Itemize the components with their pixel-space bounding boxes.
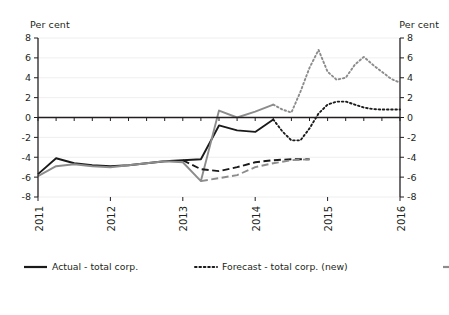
y-axis-right-unit-label: Per cent — [399, 19, 439, 30]
legend-label: Forecast - total corp. (new) — [222, 261, 348, 272]
chart-legend: Actual - total corp.Forecast - total cor… — [24, 258, 449, 275]
svg-text:-8: -8 — [407, 191, 416, 202]
svg-text:0: 0 — [407, 112, 413, 123]
series-line — [38, 105, 273, 182]
svg-text:2013: 2013 — [178, 206, 189, 231]
svg-text:-6: -6 — [407, 172, 416, 183]
svg-text:8: 8 — [25, 32, 31, 43]
series-line — [38, 119, 273, 174]
svg-text:-4: -4 — [407, 152, 416, 163]
svg-text:-4: -4 — [22, 152, 31, 163]
x-axis: 201120122013201420152016 — [34, 118, 407, 232]
svg-text:6: 6 — [25, 52, 31, 63]
axis-lines — [38, 38, 400, 197]
svg-text:2: 2 — [25, 92, 31, 103]
legend-swatch-solid-icon — [24, 262, 48, 272]
series-line — [273, 50, 400, 113]
legend-swatch-dotted-icon — [194, 262, 218, 272]
legend-label: Actual - total corp. — [52, 261, 138, 272]
svg-text:8: 8 — [407, 32, 413, 43]
svg-text:0: 0 — [25, 112, 31, 123]
legend-swatch-solid-icon — [443, 262, 449, 272]
svg-text:4: 4 — [407, 72, 413, 83]
svg-text:2016: 2016 — [396, 206, 407, 231]
series-line — [183, 159, 310, 171]
svg-text:2011: 2011 — [34, 206, 45, 231]
series-line — [273, 102, 400, 141]
y-axis-right: 86420-2-4-6-8 — [400, 32, 416, 202]
svg-text:2: 2 — [407, 92, 413, 103]
svg-text:2012: 2012 — [106, 206, 117, 231]
y-axis-left-unit-label: Per cent — [30, 19, 70, 30]
data-series-layer — [38, 50, 400, 181]
y-axis-left: 86420-2-4-6-8 — [22, 32, 38, 202]
legend-item: Actual - total corp. — [24, 261, 194, 272]
svg-text:6: 6 — [407, 52, 413, 63]
svg-text:2015: 2015 — [323, 206, 334, 231]
svg-text:2014: 2014 — [251, 206, 262, 231]
svg-text:-2: -2 — [407, 132, 416, 143]
legend-item: Actual - SME — [443, 261, 449, 272]
svg-text:-2: -2 — [22, 132, 31, 143]
svg-text:-6: -6 — [22, 172, 31, 183]
svg-text:-8: -8 — [22, 191, 31, 202]
legend-item: Forecast - total corp. (new) — [194, 261, 443, 272]
svg-text:4: 4 — [25, 72, 31, 83]
